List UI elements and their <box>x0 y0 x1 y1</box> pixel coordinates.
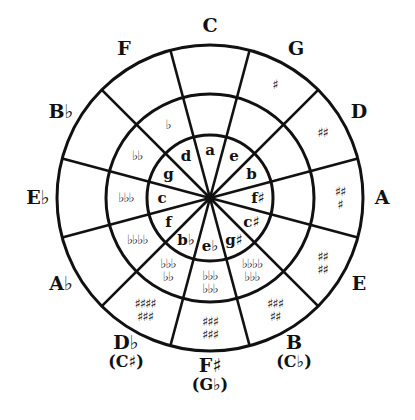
major-key-label: E♭ <box>26 186 49 208</box>
segment-divider <box>102 198 210 306</box>
flat-signature: ♭♭♭♭ <box>127 232 148 247</box>
major-key-label: A <box>374 186 390 208</box>
minor-key-label: g <box>163 165 174 183</box>
minor-key-label: e♭ <box>202 237 219 255</box>
minor-key-label: c♯ <box>243 213 259 231</box>
sharp-signature: ♯ <box>337 197 343 212</box>
minor-key-label: b♭ <box>177 231 195 249</box>
enharmonic-key-label: (C♭) <box>276 352 311 371</box>
minor-key-label: g♯ <box>225 231 243 249</box>
major-key-label: C <box>202 14 217 36</box>
minor-key-label: f <box>165 213 173 231</box>
sharp-signature: ♯♯ <box>317 262 328 277</box>
minor-key-label: a <box>205 141 215 159</box>
enharmonic-key-label: (G♭) <box>192 375 228 394</box>
minor-key-label: d <box>181 147 192 165</box>
flat-signature: ♭ <box>165 117 171 132</box>
minor-key-label: c <box>157 189 166 207</box>
segment-divider <box>210 198 318 306</box>
major-key-label: F♯ <box>199 354 222 376</box>
minor-key-label: f♯ <box>251 189 265 207</box>
minor-key-label: e <box>229 147 239 165</box>
minor-key-label: b <box>246 165 257 183</box>
flat-signature: ♭♭ <box>163 269 174 284</box>
sharp-signature: ♯♯ <box>317 125 328 140</box>
circle-of-fifths-diagram: CGDAEB(C♭)F♯(G♭)D♭(C♯)A♭E♭B♭F aebf♯c♯g♯e… <box>0 0 415 420</box>
major-key-label: A♭ <box>48 272 73 294</box>
segment-divider <box>210 50 250 198</box>
major-key-label: D <box>351 100 367 122</box>
segment-divider <box>210 90 318 198</box>
flat-signature: ♭♭♭ <box>244 269 260 284</box>
enharmonic-key-label: (C♯) <box>108 352 144 371</box>
flat-signature: ♭♭ <box>132 148 143 163</box>
flat-signature: ♭♭♭ <box>118 190 134 205</box>
flat-signature: ♭♭♭ <box>202 281 218 296</box>
major-key-label: F <box>117 37 131 59</box>
sharp-signature: ♯♯ <box>270 309 281 324</box>
sharp-signature: ♯♯♯ <box>202 327 219 342</box>
segment-divider <box>170 50 210 198</box>
major-key-label: G <box>288 37 304 59</box>
major-key-label: B♭ <box>49 100 74 122</box>
sharp-signature: ♯ <box>272 77 278 92</box>
sharp-signature: ♯♯♯ <box>137 309 154 324</box>
segment-divider <box>102 90 210 198</box>
center-hub <box>205 193 215 203</box>
major-key-label: B <box>286 331 302 353</box>
major-key-label: D♭ <box>113 331 138 353</box>
major-key-label: E <box>352 272 366 294</box>
